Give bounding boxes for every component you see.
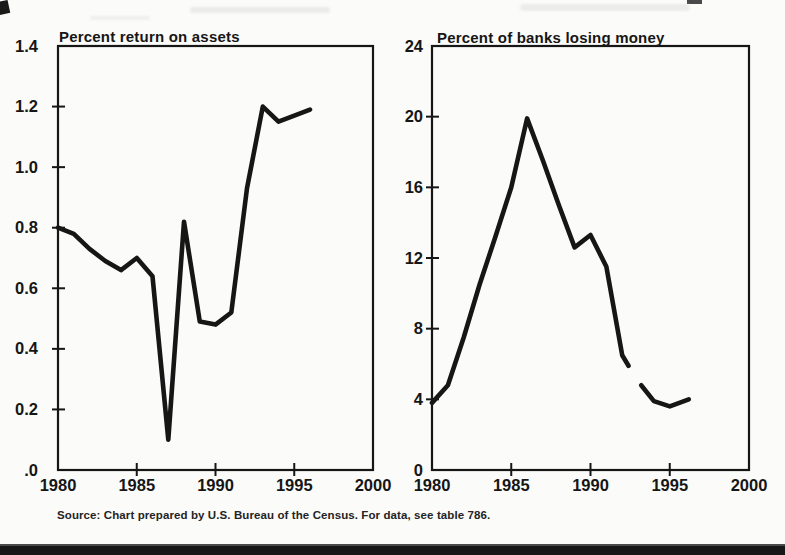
scanned-chart-page: Percent return on assets Percent of bank… <box>0 0 785 555</box>
y-axis-label: 8 <box>414 319 423 337</box>
y-axis-label: 4 <box>414 390 424 408</box>
y-axis-label: 16 <box>405 178 423 196</box>
y-axis-label: 24 <box>405 37 424 55</box>
y-axis-label: 12 <box>405 249 423 267</box>
x-axis-label: 1990 <box>572 476 609 494</box>
bottom-rule <box>0 544 785 555</box>
x-axis-label: 2000 <box>731 476 768 494</box>
x-axis-label: 1995 <box>651 476 688 494</box>
x-axis-label: 1985 <box>493 476 530 494</box>
source-note: Source: Chart prepared by U.S. Bureau of… <box>57 509 490 521</box>
plot-border <box>432 46 749 470</box>
data-line <box>432 118 629 403</box>
right-chart-canvas: 2420161284019801985199019952000 <box>0 0 785 555</box>
data-line <box>641 385 689 406</box>
y-axis-label: 20 <box>405 107 423 125</box>
x-axis-label: 1980 <box>414 476 451 494</box>
